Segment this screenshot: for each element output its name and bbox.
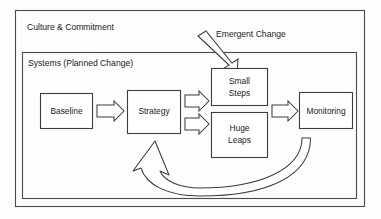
arrow-baseline-to-strategy	[97, 101, 124, 121]
diagram-canvas: Culture & Commitment Systems (Planned Ch…	[0, 0, 381, 219]
node-huge-leaps-label-line2: Leaps	[228, 135, 251, 145]
inner-frame-label: Systems (Planned Change)	[28, 58, 133, 68]
arrow-to-monitoring	[272, 101, 298, 121]
arrow-strategy-to-small-steps	[185, 91, 209, 111]
change-management-diagram: Culture & Commitment Systems (Planned Ch…	[0, 0, 381, 219]
node-small-steps-label-line1: Small	[229, 76, 250, 86]
node-strategy-label: Strategy	[138, 106, 170, 116]
node-monitoring-label: Monitoring	[306, 106, 345, 116]
node-small-steps	[212, 69, 268, 106]
arrow-strategy-to-huge-leaps	[185, 114, 209, 134]
outer-frame-label: Culture & Commitment	[27, 22, 115, 32]
node-baseline-label: Baseline	[50, 106, 82, 116]
emergent-change-label: Emergent Change	[216, 29, 286, 39]
node-huge-leaps-label-line1: Huge	[229, 123, 249, 133]
node-small-steps-label-line2: Steps	[229, 88, 250, 98]
